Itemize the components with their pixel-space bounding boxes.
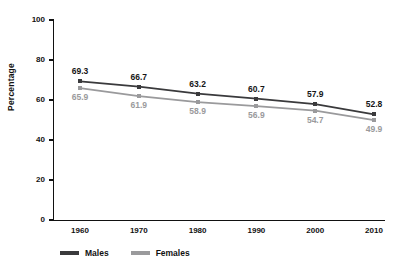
females-line-swatch bbox=[131, 251, 150, 254]
y-axis-tick bbox=[49, 179, 53, 180]
y-axis-tick bbox=[49, 59, 53, 60]
x-axis-tick-label: 1970 bbox=[119, 226, 159, 235]
chart-figure: Percentage 020406080100 1960197019801990… bbox=[0, 0, 400, 266]
x-axis-tick-label: 2000 bbox=[295, 226, 335, 235]
data-point-label: 54.7 bbox=[292, 116, 338, 125]
data-point-label: 52.8 bbox=[351, 100, 397, 109]
data-point-marker bbox=[254, 97, 258, 101]
data-point-marker bbox=[137, 85, 141, 89]
data-point-label: 66.7 bbox=[116, 73, 162, 82]
y-axis-title: Percentage bbox=[6, 32, 16, 142]
data-point-marker bbox=[372, 118, 376, 122]
y-axis-tick-label: 80 bbox=[19, 56, 45, 64]
legend-item-label: Females bbox=[156, 248, 190, 258]
data-point-label: 69.3 bbox=[57, 67, 103, 76]
y-axis-tick bbox=[49, 219, 53, 220]
data-point-label: 60.7 bbox=[233, 85, 279, 94]
data-point-label: 65.9 bbox=[57, 93, 103, 102]
males-line-swatch bbox=[60, 251, 79, 254]
data-point-marker bbox=[78, 79, 82, 83]
data-point-label: 49.9 bbox=[351, 125, 397, 134]
y-axis-tick-label: 20 bbox=[19, 176, 45, 184]
data-point-label: 56.9 bbox=[233, 111, 279, 120]
legend-item-males[interactable]: Males bbox=[60, 248, 109, 258]
y-axis-tick-label: 40 bbox=[19, 136, 45, 144]
data-point-marker bbox=[313, 109, 317, 113]
data-point-marker bbox=[313, 102, 317, 106]
y-axis-tick bbox=[49, 139, 53, 140]
x-axis-line bbox=[53, 220, 385, 221]
y-axis-tick-label: 0 bbox=[19, 216, 45, 224]
data-point-marker bbox=[137, 94, 141, 98]
x-axis-tick-label: 2010 bbox=[354, 226, 394, 235]
data-point-label: 63.2 bbox=[175, 80, 221, 89]
x-axis-tick-label: 1990 bbox=[236, 226, 276, 235]
legend-item-label: Males bbox=[85, 248, 109, 258]
y-axis-tick-label: 60 bbox=[19, 96, 45, 104]
data-point-marker bbox=[372, 112, 376, 116]
y-axis-line bbox=[53, 19, 54, 221]
data-point-marker bbox=[78, 86, 82, 90]
data-point-label: 57.9 bbox=[292, 90, 338, 99]
y-axis-tick-label: 100 bbox=[19, 16, 45, 24]
chart-legend: MalesFemales bbox=[60, 248, 190, 258]
x-axis-tick-label: 1980 bbox=[178, 226, 218, 235]
data-point-label: 61.9 bbox=[116, 101, 162, 110]
data-point-marker bbox=[196, 100, 200, 104]
y-axis-tick bbox=[49, 99, 53, 100]
legend-item-females[interactable]: Females bbox=[131, 248, 190, 258]
data-point-marker bbox=[196, 92, 200, 96]
data-point-marker bbox=[254, 104, 258, 108]
x-axis-tick-label: 1960 bbox=[60, 226, 100, 235]
data-point-label: 58.9 bbox=[175, 107, 221, 116]
y-axis-tick bbox=[49, 19, 53, 20]
